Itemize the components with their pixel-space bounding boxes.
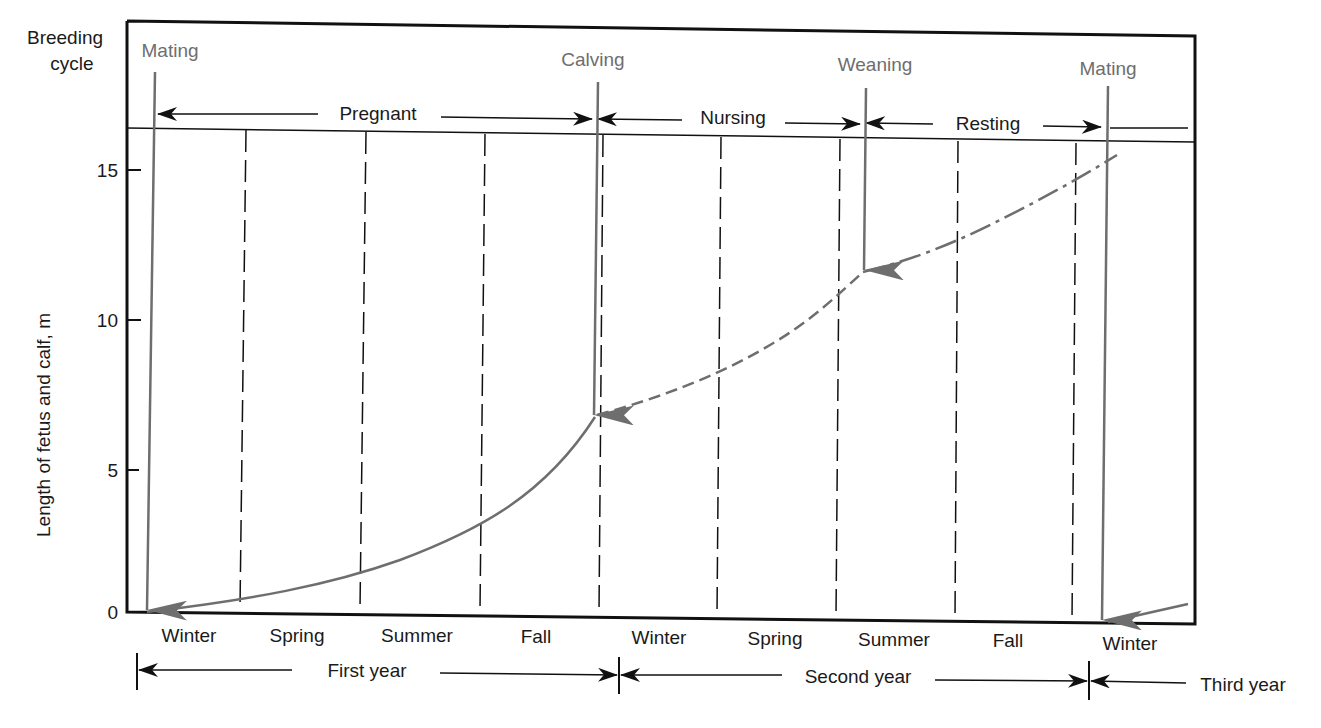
season-labels: Winter Spring Summer Fall Winter Spring …	[162, 625, 1159, 654]
calf-nursing-curve-dashed	[597, 272, 863, 415]
event-mating-2: Mating	[1079, 58, 1136, 79]
third-year-fetus-curve	[1108, 604, 1188, 622]
season-grid	[240, 130, 1076, 620]
phase-nursing: Nursing	[700, 107, 765, 128]
event-arrows	[147, 72, 1108, 620]
svg-text:Summer: Summer	[858, 629, 930, 650]
event-mating-1: Mating	[141, 40, 198, 61]
event-calving: Calving	[561, 49, 624, 70]
fetus-curve-solid	[147, 417, 595, 612]
year-ranges	[137, 653, 1186, 700]
y-axis: 0 5 10 15 Length of fetus and calf, m	[33, 160, 141, 623]
breeding-cycle-label: Breeding cycle	[27, 27, 103, 74]
phase-resting: Resting	[956, 113, 1020, 134]
phase-arrows	[158, 114, 1188, 128]
year-third: Third year	[1200, 674, 1286, 695]
svg-text:Fall: Fall	[993, 630, 1024, 651]
event-weaning: Weaning	[838, 54, 913, 75]
plot-frame	[127, 21, 1195, 624]
growth-curve	[147, 155, 1188, 622]
svg-text:Winter: Winter	[162, 625, 218, 646]
svg-text:Spring: Spring	[270, 625, 325, 646]
year-second: Second year	[805, 666, 912, 687]
ytick-5: 5	[107, 460, 118, 481]
phase-pregnant: Pregnant	[339, 103, 417, 124]
mating-arrow-1	[147, 72, 155, 610]
calving-arrow	[594, 82, 598, 415]
breeding-cycle-divider	[127, 128, 1195, 142]
ytick-10: 10	[97, 310, 118, 331]
calf-resting-curve-dashdot	[863, 155, 1117, 272]
svg-text:Spring: Spring	[748, 628, 803, 649]
ytick-0: 0	[107, 602, 118, 623]
mating-arrow-2	[1102, 86, 1108, 620]
svg-text:Summer: Summer	[381, 625, 453, 646]
breeding-cycle-figure: 0 5 10 15 Length of fetus and calf, m Br…	[0, 0, 1321, 728]
year-first: First year	[327, 660, 407, 681]
svg-text:Winter: Winter	[1103, 633, 1159, 654]
svg-text:Winter: Winter	[632, 627, 688, 648]
weaning-arrow	[864, 88, 866, 270]
svg-text:cycle: cycle	[50, 53, 93, 74]
ytick-15: 15	[97, 160, 118, 181]
svg-text:Fall: Fall	[521, 626, 552, 647]
svg-text:Breeding: Breeding	[27, 27, 103, 48]
y-axis-label: Length of fetus and calf, m	[33, 313, 54, 537]
